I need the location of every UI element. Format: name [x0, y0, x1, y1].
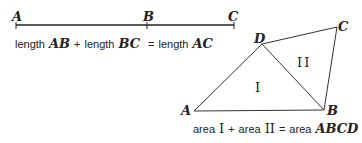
label-point-b: B — [142, 9, 154, 24]
diagonal-db — [262, 44, 324, 110]
quad-abcd — [194, 27, 337, 111]
segment-diagram: A B C length AB + length BC = length AC — [10, 9, 239, 51]
label-point-b: B — [326, 103, 338, 118]
label-point-c: C — [228, 9, 239, 24]
label-point-a: A — [179, 103, 191, 118]
region-two-label: II — [297, 55, 311, 70]
region-one-label: I — [255, 80, 260, 95]
quad-caption: area I + area II = area ABCD — [193, 119, 359, 136]
label-point-d: D — [253, 31, 266, 46]
label-point-a: A — [10, 9, 22, 24]
segment-caption: length AB + length BC = length AC — [15, 34, 214, 51]
label-point-c: C — [338, 19, 349, 34]
figure-canvas: A B C length AB + length BC = length AC … — [0, 0, 362, 143]
